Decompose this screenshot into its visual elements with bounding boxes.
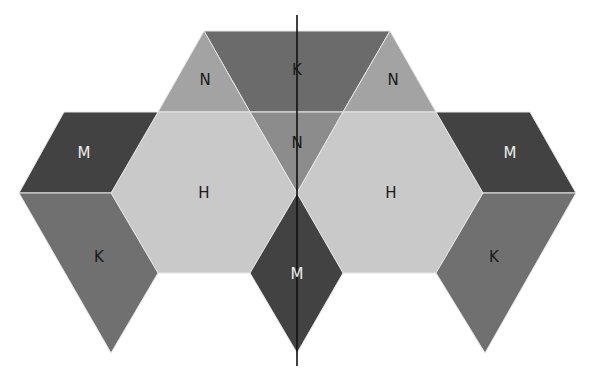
label-top-k: K: [292, 61, 303, 79]
label-right-h: H: [385, 184, 396, 202]
label-right-k: K: [489, 248, 500, 266]
label-center-n: N: [291, 134, 302, 152]
label-top-right-n: N: [387, 71, 398, 89]
label-top-left-n: N: [199, 71, 210, 89]
label-left-k: K: [94, 248, 105, 266]
label-left-m: M: [78, 144, 91, 162]
label-left-h: H: [198, 184, 209, 202]
label-bottom-m: M: [291, 265, 304, 283]
tessellation-diagram: K N N N H H M M K K M: [0, 0, 597, 380]
label-right-m: M: [504, 144, 517, 162]
